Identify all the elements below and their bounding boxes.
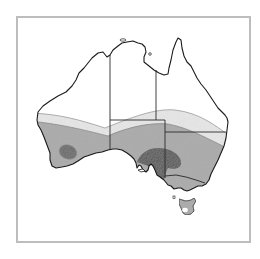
king-island [173, 196, 175, 198]
tasmania-unshaded-patch [182, 208, 188, 212]
australia-map [0, 0, 260, 259]
kangaroo-island [138, 169, 145, 172]
melville-island [120, 39, 126, 41]
groote-island [149, 53, 152, 56]
zone-medium-band [30, 121, 235, 259]
tasmania [179, 198, 196, 215]
